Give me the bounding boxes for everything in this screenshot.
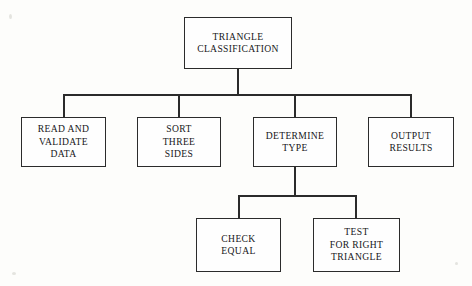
edge-determine-type-stem [294, 167, 296, 196]
edge-drop-determine-type [294, 94, 296, 117]
node-output-results[interactable]: OUTPUT RESULTS [368, 117, 454, 167]
node-check-equal[interactable]: CHECK EQUAL [196, 218, 281, 272]
scan-speck [9, 14, 12, 19]
edge-drop-sort-sides [178, 94, 180, 117]
node-label: TRIANGLE CLASSIFICATION [194, 31, 282, 56]
node-label: OUTPUT RESULTS [386, 130, 435, 155]
node-sort-three-sides[interactable]: SORT THREE SIDES [137, 117, 221, 167]
node-label: SORT THREE SIDES [160, 123, 199, 160]
node-label: DETERMINE TYPE [263, 130, 328, 155]
edge-drop-test-right [355, 195, 357, 218]
node-label: READ AND VALIDATE DATA [35, 123, 93, 160]
node-triangle-classification[interactable]: TRIANGLE CLASSIFICATION [184, 17, 292, 69]
edge-drop-output-results [410, 94, 412, 117]
scan-speck [12, 272, 16, 275]
edge-drop-check-equal [238, 195, 240, 218]
node-read-and-validate-data[interactable]: READ AND VALIDATE DATA [21, 117, 106, 167]
scan-speck [455, 262, 458, 265]
node-label: TEST FOR RIGHT TRIANGLE [327, 226, 387, 263]
edge-bus-level2 [63, 94, 412, 96]
edge-drop-read-validate [63, 94, 65, 117]
edge-root-stem [237, 69, 239, 95]
node-determine-type[interactable]: DETERMINE TYPE [253, 117, 337, 167]
diagram-canvas: TRIANGLE CLASSIFICATION READ AND VALIDAT… [0, 0, 472, 286]
node-test-for-right-triangle[interactable]: TEST FOR RIGHT TRIANGLE [313, 218, 400, 272]
edge-bus-level3 [238, 195, 357, 197]
node-label: CHECK EQUAL [218, 233, 258, 258]
